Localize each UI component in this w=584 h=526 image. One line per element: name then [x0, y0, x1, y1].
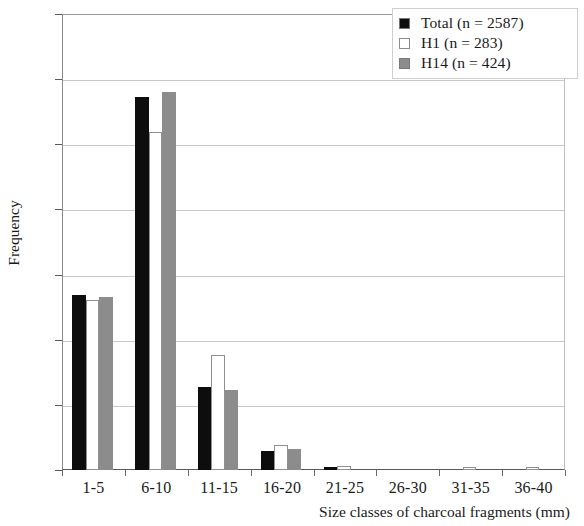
bar-total-11-15	[198, 387, 212, 470]
x-tick-label-16-20: 16-20	[263, 479, 301, 497]
x-tick-mark-6	[439, 470, 440, 476]
y-axis-title: Frequency	[5, 143, 23, 323]
y-tick-mark-20	[55, 340, 62, 341]
x-tick-mark-7	[502, 470, 503, 476]
bar-h1-11-15	[211, 355, 225, 470]
bars-layer	[62, 14, 565, 470]
bar-h14-1-5	[99, 297, 113, 470]
x-axis-title: Size classes of charcoal fragments (mm)	[0, 503, 570, 521]
x-tick-label-21-25: 21-25	[326, 479, 364, 497]
y-tick-mark-40	[55, 209, 62, 210]
x-tick-mark-4	[314, 470, 315, 476]
bar-h1-36-40	[526, 467, 540, 470]
bar-h14-16-20	[288, 449, 302, 470]
bar-h14-11-15	[225, 390, 239, 470]
legend: Total (n = 2587) H1 (n = 283) H14 (n = 4…	[392, 8, 578, 79]
bar-total-1-5	[72, 295, 86, 470]
bar-h1-31-35	[463, 467, 477, 470]
x-tick-label-31-35: 31-35	[452, 479, 490, 497]
legend-swatch-h14-icon	[399, 58, 410, 69]
x-tick-mark-8	[565, 470, 566, 476]
bar-h1-21-25	[337, 466, 351, 470]
bar-total-6-10	[135, 97, 149, 470]
x-tick-label-26-30: 26-30	[389, 479, 427, 497]
y-tick-mark-30	[55, 275, 62, 276]
bar-h1-16-20	[274, 445, 288, 470]
bar-h1-6-10	[149, 132, 163, 470]
x-tick-mark-1	[125, 470, 126, 476]
bar-h14-6-10	[162, 92, 176, 470]
bar-total-21-25	[324, 467, 338, 470]
x-tick-label-36-40: 36-40	[514, 479, 552, 497]
x-tick-label-6-10: 6-10	[141, 479, 171, 497]
x-tick-mark-0	[62, 470, 63, 476]
y-tick-mark-50	[55, 144, 62, 145]
legend-label-h1: H1 (n = 283)	[421, 34, 503, 52]
legend-swatch-total-icon	[399, 18, 410, 29]
x-tick-label-11-15: 11-15	[200, 479, 238, 497]
x-tick-label-1-5: 1-5	[82, 479, 104, 497]
y-tick-mark-0	[55, 470, 62, 471]
legend-item: H14 (n = 424)	[399, 53, 571, 73]
y-tick-mark-10	[55, 405, 62, 406]
legend-item: H1 (n = 283)	[399, 33, 571, 53]
legend-swatch-h1-icon	[399, 38, 410, 49]
bar-h1-1-5	[86, 300, 100, 470]
legend-item: Total (n = 2587)	[399, 13, 571, 33]
y-tick-mark-60	[55, 79, 62, 80]
legend-label-total: Total (n = 2587)	[421, 14, 524, 32]
x-tick-mark-5	[376, 470, 377, 476]
x-tick-mark-2	[188, 470, 189, 476]
legend-label-h14: H14 (n = 424)	[421, 54, 511, 72]
bar-chart: 010203040506070 1-56-1011-1516-2021-2526…	[0, 0, 584, 526]
bar-total-16-20	[261, 451, 275, 470]
x-tick-mark-3	[251, 470, 252, 476]
y-tick-mark-70	[55, 14, 62, 15]
